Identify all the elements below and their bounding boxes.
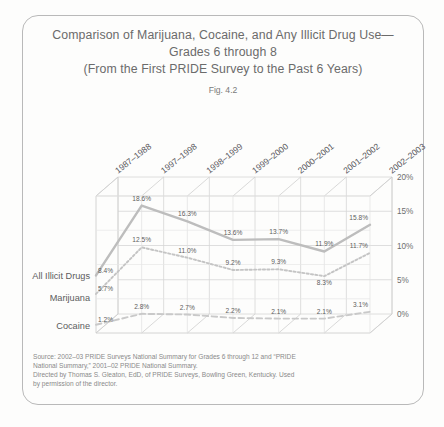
y-tick-label: 5% (397, 276, 409, 285)
x-tick-label: 2001–2002 (341, 141, 381, 175)
data-point-label: 2.7% (180, 304, 195, 311)
data-point-label: 16.3% (178, 210, 197, 217)
y-tick-label: 15% (397, 207, 413, 216)
data-point-label: 2.1% (317, 308, 332, 315)
data-point-label: 2.2% (225, 307, 240, 314)
series-legend-label: Cocaine (56, 321, 90, 331)
source-line-1: Source: 2002–03 PRIDE Surveys National S… (33, 353, 405, 362)
data-point-label: 3.1% (353, 301, 368, 308)
data-point-label: 12.5% (132, 236, 151, 243)
series-legend-label: Marijuana (50, 293, 91, 303)
data-point-label: 8.4% (98, 267, 113, 274)
y-tick-label: 0% (397, 310, 409, 319)
data-point-label: 5.7% (98, 285, 113, 292)
data-point-label: 18.6% (132, 195, 151, 202)
x-tick-label: 1998–1999 (204, 141, 244, 175)
data-point-label: 2.1% (271, 308, 286, 315)
source-note: Source: 2002–03 PRIDE Surveys National S… (33, 353, 405, 388)
x-tick-label: 1999–2000 (250, 141, 290, 175)
x-tick-label: 1987–1988 (113, 141, 153, 175)
data-point-label: 11.0% (178, 247, 196, 254)
data-point-label: 8.3% (317, 279, 332, 286)
series-legend-label: All Illicit Drugs (32, 271, 90, 281)
data-point-label: 1.2% (98, 316, 113, 323)
data-point-label: 13.7% (269, 228, 288, 235)
x-tick-label: 2000–2001 (296, 141, 336, 175)
data-point-label: 9.2% (225, 259, 240, 266)
y-tick-label: 10% (397, 242, 413, 251)
data-point-label: 15.8% (349, 214, 368, 221)
x-tick-label: 2002–2003 (387, 141, 427, 175)
y-tick-label: 20% (397, 173, 413, 182)
data-point-label: 13.6% (224, 229, 243, 236)
source-line-3: Directed by Thomas S. Gleaton, EdD, of P… (33, 371, 405, 380)
source-line-2: National Summary,” 2001–02 PRIDE Nationa… (33, 362, 405, 371)
data-point-label: 11.9% (315, 240, 333, 247)
data-point-label: 11.7% (350, 242, 368, 249)
source-line-4: by permission of the director. (33, 380, 405, 389)
data-point-label: 9.3% (271, 258, 286, 265)
x-tick-label: 1997–1998 (159, 141, 199, 175)
figure-page: Comparison of Marijuana, Cocaine, and An… (0, 0, 444, 427)
data-point-label: 2.8% (134, 303, 149, 310)
